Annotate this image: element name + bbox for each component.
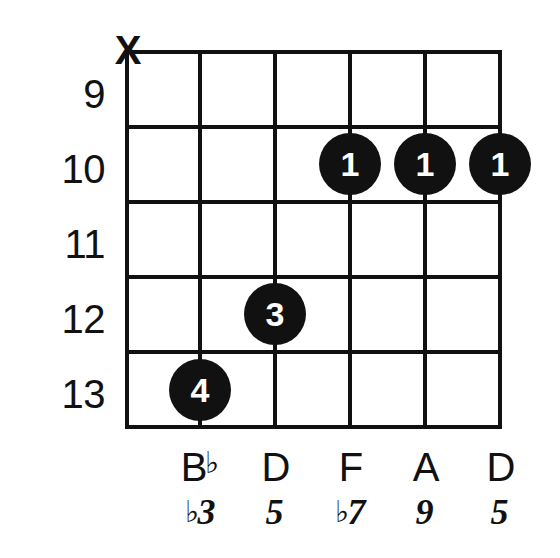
- fret-label-9: 9: [15, 74, 105, 114]
- fret-line-10-11: [125, 200, 502, 204]
- string-line-4: [348, 50, 352, 429]
- fret-label-12: 12: [15, 299, 105, 339]
- string-line-5: [423, 50, 427, 429]
- flat-icon: ♭: [335, 495, 349, 528]
- note-letter: D: [262, 445, 291, 489]
- note-letter: B: [181, 445, 208, 489]
- fret-line-11-12: [125, 275, 502, 279]
- flat-icon: ♭: [185, 495, 199, 528]
- finger-dot-string6-fret10: 1: [469, 133, 531, 195]
- finger-dot-string2-fret13: 4: [169, 359, 231, 421]
- mute-x-icon: X: [113, 34, 143, 66]
- fret-line-9-10: [125, 125, 502, 129]
- string-line-1: [125, 50, 129, 429]
- interval-degree: 9: [416, 492, 434, 532]
- finger-dot-string3-fret12: 3: [244, 283, 306, 345]
- fret-line-12-13: [125, 350, 502, 354]
- string-line-3: [273, 50, 277, 429]
- interval-string6: 5: [455, 494, 545, 530]
- string-line-6: [498, 50, 502, 429]
- interval-degree: 5: [491, 492, 509, 532]
- finger-dot-string5-fret10: 1: [394, 133, 456, 195]
- interval-degree: 5: [266, 492, 284, 532]
- interval-degree: 3: [198, 492, 216, 532]
- fret-line-bottom: [125, 425, 502, 429]
- fret-label-11: 11: [15, 224, 105, 264]
- flat-icon: ♭: [205, 446, 219, 479]
- chord-diagram: 9 10 11 12 13 X 1 1 1 3 4 B♭ D F A D: [0, 0, 560, 558]
- fret-label-13: 13: [15, 374, 105, 414]
- fret-label-10: 10: [15, 149, 105, 189]
- fret-line-top: [125, 50, 502, 54]
- note-letter: D: [487, 445, 516, 489]
- finger-dot-string4-fret10: 1: [319, 133, 381, 195]
- interval-degree: 7: [348, 492, 366, 532]
- note-letter: A: [413, 445, 440, 489]
- note-letter: F: [339, 445, 363, 489]
- note-name-string6: D: [455, 447, 545, 487]
